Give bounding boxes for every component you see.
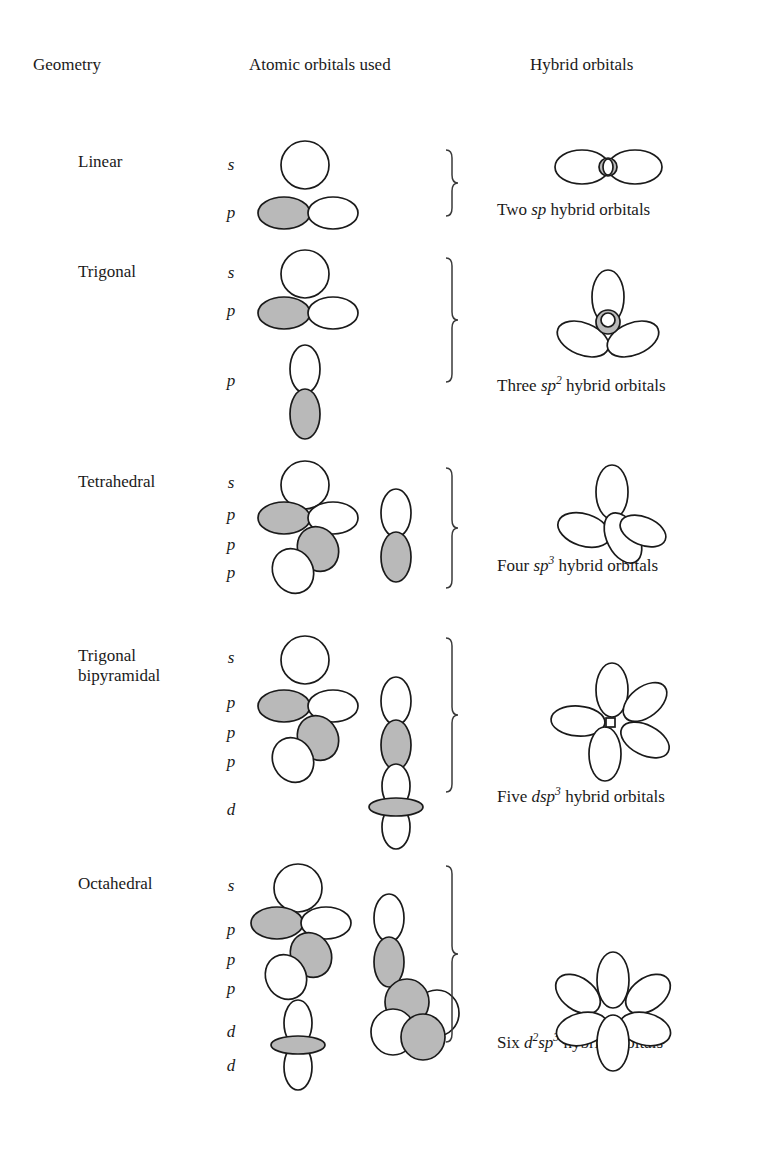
orbital-label-tbp-p2: p <box>224 723 238 743</box>
orbital-label-linear-p: p <box>224 203 238 223</box>
hybrid-orbital-figure: Geometry Atomic orbitals used Hybrid orb… <box>0 0 770 1152</box>
hybrid-symbol-linear: sp <box>531 200 546 219</box>
orbital-label-tetrahedral-p1: p <box>224 505 238 525</box>
hybrid-count-tbp: Five <box>497 787 527 806</box>
geometry-name-octahedral: Octahedral <box>78 874 153 894</box>
orbital-label-trigonal-s: s <box>224 263 238 283</box>
hybrid-count-trigonal: Three <box>497 376 537 395</box>
hybrid-orbital-d2sp3-octahedral <box>548 952 677 1071</box>
hybrid-orbital-sp-linear <box>555 150 662 184</box>
brace-tbp <box>446 638 458 792</box>
orbital-label-tetrahedral-p3: p <box>224 563 238 583</box>
orbital-label-octahedral-d2: d <box>224 1056 238 1076</box>
hybrid-caption-trigonal: Three sp2 hybrid orbitals <box>497 376 666 396</box>
orbital-label-linear-s: s <box>224 155 238 175</box>
orbital-diagrams-layer <box>0 0 770 1152</box>
hybrid-caption-tbp: Five dsp3 hybrid orbitals <box>497 787 665 807</box>
atomic-orbital-s-octahedral <box>274 864 322 912</box>
atomic-orbital-py-trigonal <box>290 345 320 439</box>
hybrid-symbol-octahedral: d2sp3 <box>524 1033 559 1052</box>
hybrid-suffix-tetrahedral: hybrid orbitals <box>559 556 659 575</box>
atomic-orbital-px-trigonal <box>258 297 358 329</box>
orbital-label-tetrahedral-p2: p <box>224 535 238 555</box>
hybrid-symbol-tetrahedral: sp3 <box>533 556 554 575</box>
atomic-orbital-s-tbp <box>281 636 329 684</box>
brace-tetrahedral <box>446 468 458 588</box>
atomic-orbital-dz2-tbp <box>369 764 423 849</box>
atomic-orbital-s-linear <box>281 141 329 189</box>
atomic-orbital-px-octahedral <box>251 907 351 939</box>
orbital-label-trigonal-p2: p <box>224 371 238 391</box>
orbital-label-octahedral-p1: p <box>224 920 238 940</box>
atomic-orbital-s-trigonal <box>281 250 329 298</box>
atomic-orbital-s-tetrahedral <box>281 461 329 509</box>
atomic-orbital-p-linear <box>258 197 358 229</box>
hybrid-orbital-sp3-tetrahedral <box>553 465 670 569</box>
hybrid-orbital-sp2-trigonal <box>552 270 664 364</box>
atomic-orbital-py-tbp <box>265 708 347 789</box>
orbital-label-tbp-p3: p <box>224 752 238 772</box>
orbital-label-octahedral-p3: p <box>224 979 238 999</box>
orbital-label-tetrahedral-s: s <box>224 473 238 493</box>
atomic-orbital-dx2y2-octahedral <box>371 979 459 1060</box>
column-header-geometry: Geometry <box>33 55 101 75</box>
orbital-label-tbp-p1: p <box>224 693 238 713</box>
hybrid-count-linear: Two <box>497 200 527 219</box>
orbital-label-octahedral-p2: p <box>224 950 238 970</box>
hybrid-count-octahedral: Six <box>497 1033 520 1052</box>
atomic-orbital-dz2-octahedral <box>271 1000 325 1090</box>
hybrid-caption-octahedral: Six d2sp3 hybrid orbitals <box>497 1033 663 1053</box>
atomic-orbital-pz-octahedral <box>374 894 404 987</box>
hybrid-orbital-dsp3-tbp <box>550 663 675 781</box>
column-header-atomic-orbitals: Atomic orbitals used <box>249 55 391 75</box>
hybrid-symbol-trigonal: sp2 <box>541 376 562 395</box>
hybrid-count-tetrahedral: Four <box>497 556 529 575</box>
orbital-label-trigonal-p1: p <box>224 301 238 321</box>
atomic-orbital-px-tetrahedral <box>258 502 358 534</box>
hybrid-caption-tetrahedral: Four sp3 hybrid orbitals <box>497 556 658 576</box>
atomic-orbital-pz-tetrahedral <box>381 489 411 582</box>
hybrid-caption-linear: Two sp hybrid orbitals <box>497 200 650 220</box>
hybrid-suffix-octahedral: hybrid orbitals <box>563 1033 663 1052</box>
geometry-name-trigonal: Trigonal <box>78 262 136 282</box>
hybrid-suffix-trigonal: hybrid orbitals <box>566 376 666 395</box>
orbital-label-tbp-d: d <box>224 800 238 820</box>
hybrid-symbol-tbp: dsp3 <box>531 787 560 806</box>
orbital-label-tbp-s: s <box>224 648 238 668</box>
geometry-name-trigonal-bipyramidal: Trigonal bipyramidal <box>78 646 198 686</box>
brace-octahedral <box>446 866 458 1042</box>
atomic-orbital-py-octahedral <box>258 925 340 1006</box>
geometry-name-linear: Linear <box>78 152 122 172</box>
orbital-label-octahedral-d1: d <box>224 1022 238 1042</box>
hybrid-suffix-linear: hybrid orbitals <box>551 200 651 219</box>
hybrid-suffix-tbp: hybrid orbitals <box>565 787 665 806</box>
orbital-label-octahedral-s: s <box>224 876 238 896</box>
atomic-orbital-pz-tbp <box>381 677 411 770</box>
brace-linear <box>446 150 458 216</box>
atomic-orbital-py-tetrahedral <box>265 519 347 600</box>
atomic-orbital-px-tbp <box>258 690 358 722</box>
column-header-hybrid-orbitals: Hybrid orbitals <box>530 55 633 75</box>
brace-trigonal <box>446 258 458 382</box>
geometry-name-tetrahedral: Tetrahedral <box>78 472 155 492</box>
